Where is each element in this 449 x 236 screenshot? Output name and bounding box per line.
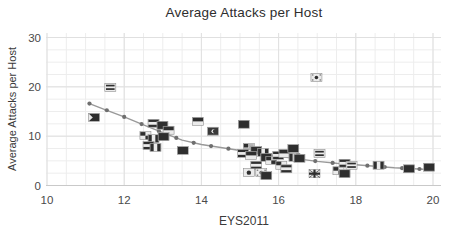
flag-marker-dark bbox=[288, 145, 298, 152]
flag-marker-emblem bbox=[257, 170, 259, 171]
flag-marker-dark bbox=[261, 172, 271, 179]
flag-marker-hbar bbox=[315, 154, 324, 156]
flag-marker-hstripes bbox=[251, 162, 261, 164]
flag-marker-vstripes bbox=[148, 135, 151, 142]
y-tick-label: 0 bbox=[35, 180, 41, 192]
flag-marker-dark bbox=[294, 155, 304, 162]
flag-marker-dark bbox=[158, 133, 168, 140]
scatter-chart-figure: Average Attacks per Host Average Attacks… bbox=[0, 0, 449, 236]
flag-marker-crescent bbox=[213, 129, 217, 133]
trend-marker-dot bbox=[139, 122, 143, 126]
trend-marker-dot bbox=[365, 164, 369, 168]
flag-marker-checker bbox=[266, 157, 271, 161]
flag-marker-hbar bbox=[347, 163, 356, 165]
flag-marker-dark bbox=[178, 147, 188, 154]
trend-marker-dot bbox=[87, 102, 91, 106]
y-tick-label: 30 bbox=[28, 32, 41, 44]
trend-marker-dot bbox=[313, 159, 317, 163]
flag-marker-hbar bbox=[105, 83, 116, 91]
flag-marker-band bbox=[163, 127, 173, 131]
trend-marker-dot bbox=[174, 136, 178, 140]
flag-marker-hbar bbox=[346, 161, 357, 169]
flag-marker-emblem bbox=[320, 74, 322, 75]
flag-marker-vstripes bbox=[373, 162, 376, 169]
flag-marker-vstripes bbox=[157, 144, 160, 151]
flag-marker-dark bbox=[404, 165, 414, 172]
flag-marker-hbar bbox=[106, 85, 115, 87]
flag-marker-vstripes bbox=[289, 154, 292, 161]
x-tick-label: 16 bbox=[272, 194, 285, 206]
flag-marker-hbar bbox=[315, 151, 324, 153]
flag-marker-hstripes bbox=[281, 170, 291, 172]
x-tick-label: 10 bbox=[41, 194, 54, 206]
flag-marker-hstripes bbox=[281, 165, 291, 167]
flag-marker-emblem bbox=[257, 175, 259, 176]
trend-marker-dot bbox=[122, 115, 126, 119]
trend-marker-dot bbox=[192, 141, 196, 145]
trend-marker-dot bbox=[105, 108, 109, 112]
scatter-plot-canvas: 1012141618200102030 bbox=[0, 0, 449, 236]
flag-marker-dark bbox=[424, 164, 434, 171]
trend-marker-dot bbox=[209, 144, 213, 148]
flag-marker-hbar bbox=[347, 166, 356, 168]
trend-marker-dot bbox=[226, 147, 230, 151]
x-tick-label: 14 bbox=[195, 194, 208, 206]
trend-marker-dot bbox=[417, 167, 421, 171]
flag-marker-vstripes bbox=[380, 162, 383, 169]
flag-marker-cross bbox=[309, 173, 320, 175]
x-axis-label: EYS2011 bbox=[47, 214, 441, 228]
flag-marker-vstripes bbox=[150, 144, 153, 151]
flag-marker-canton bbox=[249, 145, 254, 146]
y-tick-label: 10 bbox=[28, 130, 41, 142]
flag-marker-dark bbox=[340, 170, 350, 177]
flag-marker-circle bbox=[247, 170, 251, 174]
flag-marker-emblem bbox=[320, 79, 322, 80]
flag-marker-emblem bbox=[315, 76, 319, 80]
trend-marker-dot bbox=[331, 161, 335, 165]
flag-marker-emblem bbox=[312, 74, 314, 75]
flag-marker-checker bbox=[140, 132, 145, 136]
flag-marker-hbar bbox=[314, 149, 325, 157]
flag-marker-emblem bbox=[264, 170, 266, 171]
y-tick-label: 20 bbox=[28, 81, 41, 93]
flag-marker-band bbox=[193, 118, 203, 122]
flag-marker-canton bbox=[244, 144, 249, 148]
flag-marker-band bbox=[246, 152, 256, 156]
x-tick-label: 18 bbox=[349, 194, 362, 206]
flag-marker-hbar bbox=[106, 88, 115, 90]
flag-marker-emblem bbox=[312, 79, 314, 80]
flag-marker-dark bbox=[239, 121, 249, 128]
flag-marker-checker bbox=[333, 167, 338, 171]
x-tick-label: 20 bbox=[427, 194, 440, 206]
x-tick-label: 12 bbox=[118, 194, 131, 206]
